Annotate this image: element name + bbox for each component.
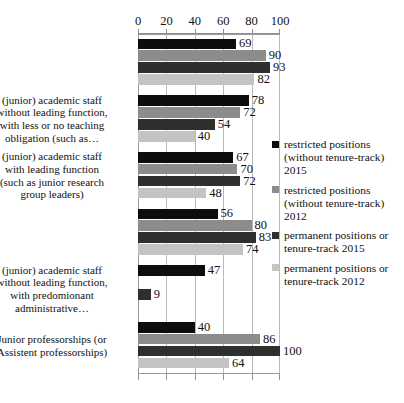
legend-label: tenure-track 2012 xyxy=(284,275,404,288)
bar-row: 72 xyxy=(138,107,280,119)
category-label-line: with less or no teaching xyxy=(0,119,118,132)
category-label-line: with predomionant xyxy=(0,289,118,302)
category-label: (junior) academic staffwithout leading f… xyxy=(0,264,118,314)
bar-row: 40 xyxy=(138,322,280,334)
x-tick-mark xyxy=(138,374,139,380)
x-axis-bottom-ticks xyxy=(138,374,280,381)
bar[interactable] xyxy=(138,289,151,300)
bar-value-label: 72 xyxy=(240,106,256,119)
legend-swatch-icon xyxy=(272,232,279,239)
bar-value-label: 93 xyxy=(270,62,286,75)
legend-item[interactable]: permanent positions ortenure-track 2015 xyxy=(272,229,404,255)
legend-item[interactable]: permanent positions ortenure-track 2012 xyxy=(272,262,404,288)
bar-row: 40 xyxy=(138,131,280,143)
bar[interactable] xyxy=(138,232,256,243)
bar[interactable] xyxy=(138,39,236,50)
legend-swatch-icon xyxy=(272,264,279,271)
category-label: Junior professorships (orAssistent profe… xyxy=(0,333,118,358)
legend-label: 2015 xyxy=(284,164,404,177)
bar[interactable] xyxy=(138,188,206,199)
chart-legend: restricted positions(without tenure-trac… xyxy=(272,138,404,294)
category-label: (junior) academic staffwith leading func… xyxy=(0,150,118,200)
bar-value-label: 64 xyxy=(229,357,245,370)
bar[interactable] xyxy=(138,244,243,255)
category-label-line: group leaders) xyxy=(0,188,118,201)
x-tick-label: 20 xyxy=(160,14,173,28)
bar[interactable] xyxy=(138,107,240,118)
bar-group: 67707248 xyxy=(138,147,280,204)
legend-label: restricted positions xyxy=(284,184,404,197)
category-label-line: with leading function xyxy=(0,163,118,176)
bar-value-label: 72 xyxy=(240,175,256,188)
bar-row: 100 xyxy=(138,346,280,358)
bar-row: 67 xyxy=(138,152,280,164)
category-label-line: without leading function, xyxy=(0,106,118,119)
legend-label: 2012 xyxy=(284,210,404,223)
category-label-line: Junior professorships (or xyxy=(0,333,118,346)
legend-item[interactable]: restricted positions(without tenure-trac… xyxy=(272,184,404,224)
category-label-line: without leading function, xyxy=(0,276,118,289)
x-tick-label: 0 xyxy=(135,14,141,28)
bar-row: 64 xyxy=(138,358,280,370)
legend-swatch-icon xyxy=(272,141,279,148)
legend-label: tenure-track 2015 xyxy=(284,242,404,255)
bar[interactable] xyxy=(138,74,254,85)
category-label-line: (junior) academic staff xyxy=(0,264,118,277)
bar-value-label: 56 xyxy=(218,208,234,221)
x-tick-label: 40 xyxy=(189,14,202,28)
bar-value-label: 40 xyxy=(195,321,211,334)
bar-row: 82 xyxy=(138,74,280,86)
legend-label: (without tenure-track) xyxy=(284,151,404,164)
bar[interactable] xyxy=(138,62,270,73)
legend-label: (without tenure-track) xyxy=(284,197,404,210)
legend-label: permanent positions or xyxy=(284,229,404,242)
bar-value-label: 54 xyxy=(215,118,231,131)
bar-row: 74 xyxy=(138,244,280,256)
bar-row: 78 xyxy=(138,95,280,107)
x-tick-label: 80 xyxy=(245,14,258,28)
x-tick-mark xyxy=(195,374,196,380)
bar[interactable] xyxy=(138,358,229,369)
legend-item[interactable]: restricted positions(without tenure-trac… xyxy=(272,138,404,178)
bar[interactable] xyxy=(138,322,195,333)
bar[interactable] xyxy=(138,95,249,106)
x-axis-top: 020406080100 xyxy=(138,14,280,34)
bar[interactable] xyxy=(138,220,252,231)
bar[interactable] xyxy=(138,131,195,142)
bar-group: 479 xyxy=(138,261,280,318)
bar[interactable] xyxy=(138,50,266,61)
legend-label: permanent positions or xyxy=(284,262,404,275)
bar-value-label: 48 xyxy=(206,187,222,200)
category-label-line: (such as junior research xyxy=(0,176,118,189)
x-tick-mark xyxy=(252,374,253,380)
bar[interactable] xyxy=(138,152,233,163)
category-label-line: (junior) academic staff xyxy=(0,150,118,163)
legend-swatch-icon xyxy=(272,186,279,193)
bar-value-label: 69 xyxy=(236,38,252,51)
category-label: (junior) academic staffwithout leading f… xyxy=(0,94,118,144)
bar-row: 70 xyxy=(138,164,280,176)
bar-value-label: 100 xyxy=(280,345,302,358)
bar[interactable] xyxy=(138,119,215,130)
bar-value-label: 40 xyxy=(195,130,211,143)
category-label-line: obligation (such as… xyxy=(0,132,118,145)
bar[interactable] xyxy=(138,164,237,175)
x-tick-mark xyxy=(223,374,224,380)
x-tick-mark xyxy=(279,374,280,380)
bar-group: 408610064 xyxy=(138,317,280,374)
bar[interactable] xyxy=(138,176,240,187)
category-label-line: Assistent professorships) xyxy=(0,346,118,359)
x-tick-label: 60 xyxy=(217,14,230,28)
bar-row: 9 xyxy=(138,289,280,301)
bar[interactable] xyxy=(138,265,205,276)
bar[interactable] xyxy=(138,334,260,345)
bar[interactable] xyxy=(138,209,218,220)
bar-value-label: 82 xyxy=(254,73,270,86)
bar-value-label: 9 xyxy=(151,288,160,301)
bar-row: 47 xyxy=(138,265,280,277)
bar-chart: 020406080100 699093827872544067707248568… xyxy=(0,0,404,403)
bar-group: 56808374 xyxy=(138,204,280,261)
plot-area: 6990938278725440677072485680837447940861… xyxy=(138,34,280,374)
bar[interactable] xyxy=(138,346,280,357)
legend-label: restricted positions xyxy=(284,138,404,151)
